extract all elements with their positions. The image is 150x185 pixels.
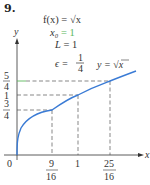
- ytick-3-4-num: 3: [4, 98, 9, 109]
- epsilon-num: 1: [78, 52, 83, 63]
- curve-label: y = √x: [96, 59, 124, 70]
- xtick-9-16-num: 9: [49, 158, 54, 169]
- sqrt-curve: [17, 71, 136, 155]
- ytick-3-4-den: 4: [4, 110, 9, 121]
- epsilon-label: ϵ =: [55, 58, 68, 69]
- xtick-1: 1: [75, 158, 80, 169]
- xtick-25-16-den: 16: [104, 171, 114, 182]
- x-axis-label: x: [144, 149, 150, 160]
- epsilon-den: 4: [78, 63, 83, 74]
- y-axis-label: y: [13, 26, 19, 37]
- ytick-5-4-num: 5: [4, 70, 9, 81]
- x-arrow-icon: [138, 153, 144, 157]
- sqrt-chart: ϵ = 1 4 y = √x y x 5 4 1 3 4 0 9 16 1 25…: [0, 0, 150, 185]
- xtick-25-16-num: 25: [104, 158, 114, 169]
- y-arrow-icon: [15, 38, 19, 44]
- xtick-9-16-den: 16: [46, 171, 56, 182]
- xtick-0: 0: [7, 158, 12, 169]
